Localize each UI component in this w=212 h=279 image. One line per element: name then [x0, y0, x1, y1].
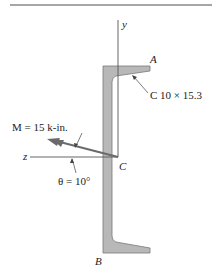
point-b-label: B [95, 255, 102, 267]
section-label: C 10 × 15.3 [150, 89, 203, 101]
axis-z-label: z [22, 150, 28, 162]
point-a-label: A [149, 53, 157, 65]
axis-y-label: y [121, 18, 127, 30]
moment-label: M = 15 k-in. [12, 121, 68, 133]
point-c-label: C [119, 160, 127, 172]
channel-section [103, 66, 150, 253]
angle-label: θ = 10° [58, 175, 90, 187]
channel-section-diagram: y A C 10 × 15.3 M = 15 k-in. z C θ = 10°… [0, 0, 212, 279]
angle-leader-arrow-icon [70, 158, 74, 163]
section-leader [134, 77, 148, 93]
